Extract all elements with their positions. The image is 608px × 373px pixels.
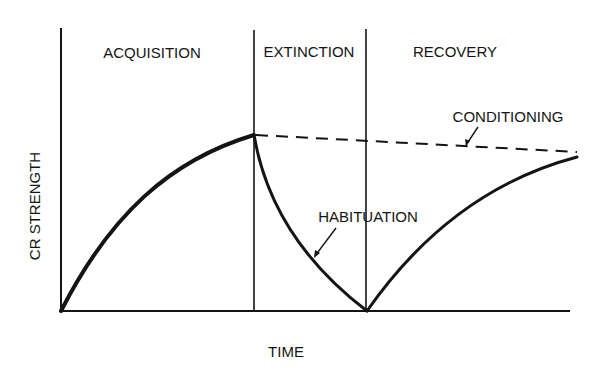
phase-label-recovery: RECOVERY (413, 43, 497, 60)
recovery-curve (367, 157, 577, 311)
conditioning-dashed-line (256, 135, 577, 152)
phase-label-acquisition: ACQUISITION (103, 44, 201, 61)
annotation-habituation: HABITUATION (318, 208, 418, 225)
annotation-conditioning: CONDITIONING (453, 108, 564, 125)
habituation-pointer-arrow (315, 228, 336, 256)
phase-label-extinction: EXTINCTION (264, 43, 355, 60)
y-axis-label: CR STRENGTH (26, 152, 43, 260)
x-axis-label: TIME (268, 343, 304, 360)
acquisition-curve (61, 135, 254, 311)
cr-strength-diagram: ACQUISITION EXTINCTION RECOVERY CONDITIO… (0, 0, 608, 373)
